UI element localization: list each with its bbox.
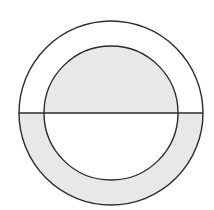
upper-inner-disk-shaded-region	[44, 46, 178, 113]
lower-outer-ring-shaded-region	[19, 113, 203, 205]
concentric-circles-diagram	[0, 0, 214, 210]
